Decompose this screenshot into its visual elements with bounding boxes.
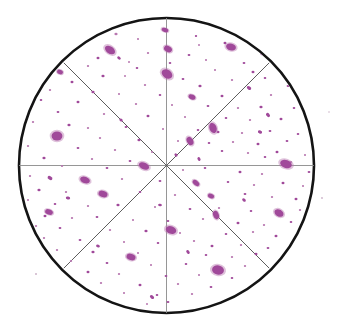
stained-particle: [247, 152, 249, 154]
stained-particle: [144, 230, 147, 232]
stained-particle: [156, 294, 159, 296]
stained-particle: [27, 145, 29, 147]
stained-particle: [114, 149, 116, 151]
stained-particle: [87, 127, 89, 129]
stained-particle: [198, 85, 201, 87]
stained-particle: [29, 175, 31, 177]
stained-particle: [197, 129, 200, 131]
stained-particle: [259, 106, 262, 108]
stained-particle: [205, 59, 207, 61]
stained-particle: [132, 219, 134, 221]
stained-particle: [280, 118, 283, 120]
stained-particle: [237, 107, 239, 109]
stained-particle: [71, 81, 74, 83]
stained-particle: [264, 156, 267, 158]
stained-particle: [269, 130, 272, 132]
stained-particle: [123, 292, 125, 294]
stained-particle: [91, 251, 94, 253]
stained-particle: [139, 191, 142, 193]
stained-particle: [227, 181, 230, 183]
stained-particle: [188, 54, 191, 56]
stained-particle: [210, 286, 213, 288]
stray-speck: [321, 197, 323, 199]
stained-particle: [264, 77, 267, 79]
stained-particle: [225, 117, 228, 119]
stained-particle: [124, 75, 126, 77]
stained-particle: [261, 173, 263, 175]
stained-particle: [293, 107, 296, 109]
stained-particle: [157, 242, 160, 244]
stained-particle: [139, 284, 142, 286]
stained-particle: [159, 180, 162, 182]
stained-particle: [191, 293, 193, 295]
stained-particle: [136, 67, 139, 69]
stained-particle: [116, 204, 119, 206]
stained-particle: [106, 167, 109, 169]
stained-particle: [103, 113, 105, 115]
stained-particle: [302, 185, 304, 187]
stained-particle: [109, 229, 111, 231]
stained-particle: [43, 237, 45, 239]
stained-particle: [167, 220, 170, 222]
stained-particle: [237, 222, 240, 224]
stained-particle: [218, 207, 220, 209]
stained-particle: [255, 253, 258, 255]
stained-particle: [177, 140, 179, 142]
stained-particle: [193, 240, 195, 242]
stained-particle: [244, 265, 246, 267]
stained-particle: [40, 99, 43, 101]
stained-particle: [276, 151, 279, 153]
stained-particle: [286, 140, 289, 142]
stained-particle: [67, 124, 70, 126]
stained-particle: [239, 171, 242, 173]
stained-particle: [128, 61, 130, 63]
stained-particle: [137, 38, 139, 40]
stained-particle: [204, 167, 207, 169]
stained-particle: [91, 158, 93, 160]
stained-particle: [59, 227, 62, 229]
stained-particle: [253, 184, 255, 186]
stained-particle: [231, 256, 233, 258]
stained-particle: [263, 224, 265, 226]
stained-particle: [123, 241, 125, 243]
stained-particle: [282, 182, 285, 184]
stained-particle: [241, 132, 243, 134]
stained-particle: [44, 215, 47, 217]
stained-particle: [267, 247, 270, 249]
stained-particle: [271, 196, 273, 198]
stained-particle: [77, 147, 80, 149]
stained-particle: [205, 254, 208, 256]
stained-particle: [221, 95, 224, 97]
stained-particle: [70, 260, 72, 262]
stained-particle: [250, 210, 253, 212]
stained-particle: [27, 199, 29, 201]
stained-particle: [243, 62, 246, 64]
stained-particle: [87, 205, 89, 207]
stained-particle: [137, 139, 140, 141]
stained-particle: [232, 141, 234, 143]
stained-particle: [198, 44, 200, 46]
stained-particle: [87, 65, 89, 67]
stained-particle: [57, 111, 60, 113]
stained-particle: [65, 191, 67, 193]
stained-particle: [244, 193, 247, 195]
stained-particle: [87, 271, 90, 273]
stained-particle: [118, 273, 120, 275]
stray-speck: [328, 111, 330, 113]
stained-particle: [275, 235, 278, 237]
stained-particle: [270, 94, 272, 96]
stained-particle: [198, 274, 200, 276]
stained-particle: [77, 101, 80, 103]
stained-particle: [295, 198, 298, 200]
stained-particle: [61, 165, 63, 167]
stained-particle: [249, 119, 251, 121]
stained-particle: [304, 154, 306, 156]
sector-plate-figure: [0, 0, 337, 335]
stained-particle: [179, 232, 181, 234]
stained-particle: [159, 94, 162, 96]
stained-particle: [101, 75, 104, 77]
stained-particle: [151, 151, 153, 153]
stained-particle: [184, 116, 186, 118]
stained-particle: [144, 84, 146, 86]
stained-particle: [135, 103, 137, 105]
